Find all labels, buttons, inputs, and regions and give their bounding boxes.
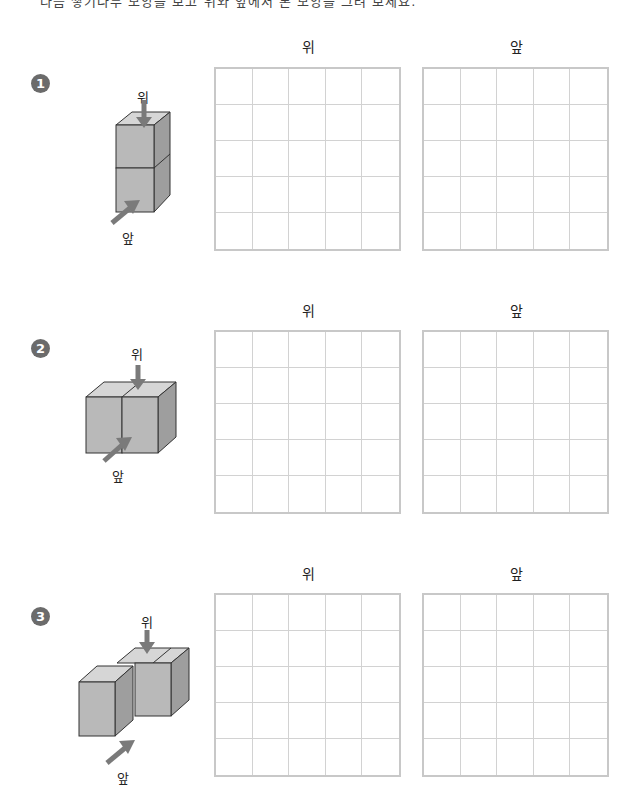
grid-cell[interactable] bbox=[461, 368, 498, 404]
grid-cell[interactable] bbox=[534, 141, 571, 177]
grid-cell[interactable] bbox=[497, 667, 534, 703]
grid-cell[interactable] bbox=[253, 476, 290, 512]
grid-cell[interactable] bbox=[253, 332, 290, 368]
grid-cell[interactable] bbox=[216, 595, 253, 631]
grid-cell[interactable] bbox=[289, 332, 326, 368]
grid-cell[interactable] bbox=[424, 141, 461, 177]
grid-cell[interactable] bbox=[570, 703, 607, 739]
grid-cell[interactable] bbox=[216, 105, 253, 141]
grid-cell[interactable] bbox=[461, 595, 498, 631]
grid-cell[interactable] bbox=[326, 368, 363, 404]
grid-cell[interactable] bbox=[362, 332, 399, 368]
grid-cell[interactable] bbox=[497, 440, 534, 476]
grid-cell[interactable] bbox=[570, 141, 607, 177]
grid-cell[interactable] bbox=[424, 105, 461, 141]
grid-cell[interactable] bbox=[253, 739, 290, 775]
grid-cell[interactable] bbox=[424, 739, 461, 775]
grid-cell[interactable] bbox=[326, 213, 363, 249]
grid-cell[interactable] bbox=[216, 440, 253, 476]
grid-cell[interactable] bbox=[362, 476, 399, 512]
grid-cell[interactable] bbox=[326, 177, 363, 213]
grid-top-view[interactable] bbox=[214, 67, 401, 251]
grid-cell[interactable] bbox=[461, 332, 498, 368]
grid-cell[interactable] bbox=[534, 440, 571, 476]
grid-cell[interactable] bbox=[253, 440, 290, 476]
grid-cell[interactable] bbox=[216, 368, 253, 404]
grid-cell[interactable] bbox=[326, 595, 363, 631]
grid-cell[interactable] bbox=[362, 105, 399, 141]
grid-cell[interactable] bbox=[497, 141, 534, 177]
grid-cell[interactable] bbox=[497, 595, 534, 631]
grid-cell[interactable] bbox=[253, 667, 290, 703]
grid-cell[interactable] bbox=[216, 69, 253, 105]
grid-cell[interactable] bbox=[424, 368, 461, 404]
grid-cell[interactable] bbox=[216, 404, 253, 440]
grid-cell[interactable] bbox=[289, 404, 326, 440]
grid-cell[interactable] bbox=[424, 213, 461, 249]
grid-cell[interactable] bbox=[497, 703, 534, 739]
grid-cell[interactable] bbox=[253, 141, 290, 177]
grid-cell[interactable] bbox=[216, 631, 253, 667]
grid-cell[interactable] bbox=[424, 476, 461, 512]
grid-cell[interactable] bbox=[534, 595, 571, 631]
grid-cell[interactable] bbox=[216, 141, 253, 177]
grid-cell[interactable] bbox=[362, 213, 399, 249]
grid-cell[interactable] bbox=[570, 667, 607, 703]
grid-cell[interactable] bbox=[570, 595, 607, 631]
grid-cell[interactable] bbox=[289, 368, 326, 404]
grid-cell[interactable] bbox=[570, 177, 607, 213]
grid-cell[interactable] bbox=[289, 476, 326, 512]
grid-cell[interactable] bbox=[424, 332, 461, 368]
grid-front-view[interactable] bbox=[422, 330, 609, 514]
grid-cell[interactable] bbox=[534, 476, 571, 512]
grid-cell[interactable] bbox=[424, 69, 461, 105]
grid-cell[interactable] bbox=[497, 69, 534, 105]
grid-cell[interactable] bbox=[362, 404, 399, 440]
grid-cell[interactable] bbox=[570, 739, 607, 775]
grid-cell[interactable] bbox=[534, 332, 571, 368]
grid-cell[interactable] bbox=[362, 631, 399, 667]
grid-cell[interactable] bbox=[253, 105, 290, 141]
grid-cell[interactable] bbox=[253, 69, 290, 105]
grid-cell[interactable] bbox=[253, 404, 290, 440]
grid-cell[interactable] bbox=[497, 177, 534, 213]
grid-cell[interactable] bbox=[424, 440, 461, 476]
grid-cell[interactable] bbox=[216, 667, 253, 703]
grid-cell[interactable] bbox=[534, 368, 571, 404]
grid-cell[interactable] bbox=[253, 703, 290, 739]
grid-cell[interactable] bbox=[461, 739, 498, 775]
grid-cell[interactable] bbox=[362, 141, 399, 177]
grid-cell[interactable] bbox=[362, 667, 399, 703]
grid-cell[interactable] bbox=[326, 703, 363, 739]
grid-cell[interactable] bbox=[461, 703, 498, 739]
grid-cell[interactable] bbox=[497, 213, 534, 249]
grid-cell[interactable] bbox=[216, 739, 253, 775]
grid-cell[interactable] bbox=[534, 213, 571, 249]
grid-cell[interactable] bbox=[326, 631, 363, 667]
grid-cell[interactable] bbox=[216, 703, 253, 739]
grid-cell[interactable] bbox=[289, 69, 326, 105]
grid-cell[interactable] bbox=[497, 631, 534, 667]
grid-cell[interactable] bbox=[497, 105, 534, 141]
grid-cell[interactable] bbox=[570, 332, 607, 368]
grid-cell[interactable] bbox=[216, 213, 253, 249]
grid-cell[interactable] bbox=[362, 177, 399, 213]
grid-cell[interactable] bbox=[362, 703, 399, 739]
grid-cell[interactable] bbox=[326, 440, 363, 476]
grid-cell[interactable] bbox=[461, 141, 498, 177]
grid-cell[interactable] bbox=[461, 476, 498, 512]
grid-cell[interactable] bbox=[570, 69, 607, 105]
grid-cell[interactable] bbox=[326, 141, 363, 177]
grid-cell[interactable] bbox=[534, 177, 571, 213]
grid-cell[interactable] bbox=[461, 105, 498, 141]
grid-cell[interactable] bbox=[534, 631, 571, 667]
grid-top-view[interactable] bbox=[214, 330, 401, 514]
grid-cell[interactable] bbox=[289, 595, 326, 631]
grid-cell[interactable] bbox=[326, 69, 363, 105]
grid-cell[interactable] bbox=[497, 739, 534, 775]
grid-cell[interactable] bbox=[424, 595, 461, 631]
grid-cell[interactable] bbox=[424, 631, 461, 667]
grid-cell[interactable] bbox=[534, 105, 571, 141]
grid-cell[interactable] bbox=[289, 667, 326, 703]
grid-cell[interactable] bbox=[497, 476, 534, 512]
